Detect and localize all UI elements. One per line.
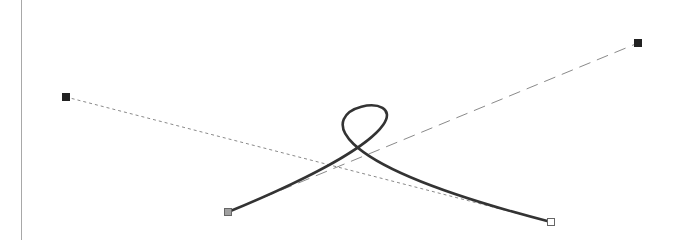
handle-line-end bbox=[66, 97, 551, 222]
bezier-editor-canvas[interactable] bbox=[0, 0, 690, 240]
control-point-1[interactable] bbox=[634, 39, 642, 47]
bezier-diagram bbox=[0, 0, 690, 240]
end-anchor-point[interactable] bbox=[548, 219, 555, 226]
bezier-curve[interactable] bbox=[228, 105, 551, 222]
start-anchor-point[interactable] bbox=[225, 209, 232, 216]
control-point-2[interactable] bbox=[62, 93, 70, 101]
